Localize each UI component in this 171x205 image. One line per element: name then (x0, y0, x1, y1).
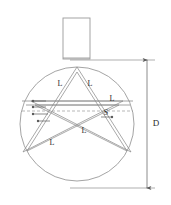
pentagram-strip-inner (27, 72, 127, 151)
label-diameter: D (153, 118, 160, 128)
label-chord-right: L (110, 94, 115, 103)
technical-drawing-canvas: L L L S L L D (0, 0, 171, 205)
label-arm-upper-left: L (58, 79, 63, 88)
label-arm-lower-left: L (50, 138, 55, 147)
label-arm-upper-right: L (88, 79, 93, 88)
pentagram-figure: L L L S L L D (0, 0, 171, 205)
pentagram-strip-outer (23, 67, 131, 152)
body-circle (20, 67, 134, 181)
neck-rectangle (63, 18, 90, 59)
label-strip-width: S (104, 108, 108, 117)
label-arm-center: L (82, 126, 87, 135)
